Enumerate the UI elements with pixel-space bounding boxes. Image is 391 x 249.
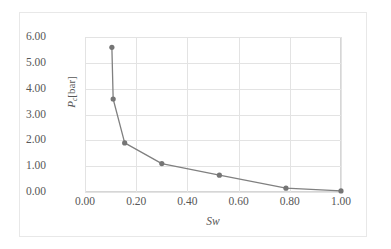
y-axis-title: Pc[bar] [66, 57, 80, 127]
y-axis-subscript: c [70, 98, 79, 101]
x-axis-title: Sw [85, 216, 341, 228]
y-axis-symbol: P [65, 101, 77, 108]
x-axis-tick-labels: 0.000.200.400.600.801.00 [0, 0, 391, 249]
x-tick-label: 1.00 [311, 196, 371, 208]
y-axis-unit: [bar] [65, 76, 77, 97]
chart-figure: 0.001.002.003.004.005.006.00 0.000.200.4… [0, 0, 391, 249]
